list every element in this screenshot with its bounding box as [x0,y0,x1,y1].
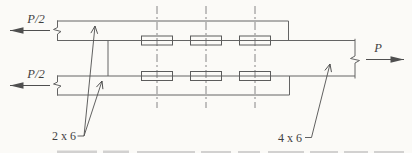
cropped-caption-remnant [57,151,404,154]
top-plate-left-break-mark [54,21,62,42]
connection-diagram-figure: P/2 P/2 P 2 x 6 4 x 6 [0,0,412,153]
member-callouts [78,26,331,138]
member-outlines [54,21,360,96]
side-plates-label: 2 x 6 [52,129,76,143]
load-label-left-top: P/2 [26,12,44,26]
bottom-plate-left-break-mark [54,76,62,96]
diagram-canvas: P/2 P/2 P 2 x 6 4 x 6 [0,0,412,153]
main-member-leader [312,64,331,138]
load-label-right: P [373,41,382,55]
load-label-left-bottom: P/2 [26,67,44,81]
load-arrows [10,31,404,86]
main-member-label: 4 x 6 [278,131,302,145]
main-member-right-break-mark [351,39,360,79]
